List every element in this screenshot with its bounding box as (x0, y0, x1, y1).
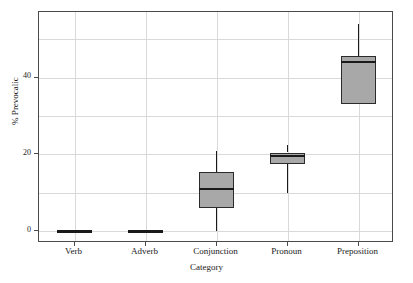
x-tick-mark (216, 242, 217, 246)
box-preposition (39, 12, 392, 241)
x-tick-mark (74, 242, 75, 246)
plot-area (38, 11, 393, 242)
x-tick-mark (287, 242, 288, 246)
x-tick-mark (358, 242, 359, 246)
x-tick-label-preposition: Preposition (337, 246, 378, 256)
box-iqr-rect (341, 56, 377, 104)
y-tick-label: 40 (23, 72, 31, 80)
y-tick-mark (34, 77, 38, 78)
x-axis-title: Category (0, 262, 413, 272)
y-axis-title: % Prevocalic (10, 41, 20, 161)
x-tick-mark (145, 242, 146, 246)
median-line (341, 61, 377, 63)
y-tick-label: 0 (27, 226, 31, 234)
box-series (39, 12, 392, 241)
y-tick-mark (34, 230, 38, 231)
x-tick-label-pronoun: Pronoun (271, 246, 302, 256)
box-plot-figure: 02040 VerbAdverbConjunctionPronounPrepos… (0, 0, 413, 283)
y-tick-label: 20 (23, 149, 31, 157)
upper-whisker (358, 24, 360, 57)
x-tick-label-verb: Verb (65, 246, 82, 256)
y-tick-mark (34, 153, 38, 154)
x-tick-label-adverb: Adverb (131, 246, 158, 256)
x-tick-label-conjunction: Conjunction (193, 246, 238, 256)
